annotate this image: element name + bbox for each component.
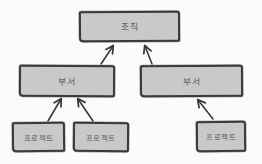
- org-hierarchy-diagram: 조직 부서 부서 프로젝트 프로젝트 프로젝트: [0, 0, 262, 164]
- node-department-right: 부서: [140, 65, 243, 98]
- arrow-dept-left-to-org: [101, 46, 113, 64]
- arrow-proj-1-to-dept-left: [48, 99, 61, 121]
- node-project-3-label: 프로젝트: [206, 131, 236, 142]
- node-organization: 조직: [79, 11, 180, 43]
- node-project-2-label: 프로젝트: [86, 131, 116, 142]
- node-department-left: 부서: [19, 65, 115, 98]
- node-project-2: 프로젝트: [73, 122, 129, 152]
- node-department-right-label: 부서: [182, 74, 200, 87]
- node-project-1-label: 프로젝트: [23, 131, 53, 142]
- node-department-left-label: 부서: [58, 74, 76, 87]
- arrow-dept-right-to-org: [145, 46, 152, 64]
- arrow-proj-2-to-dept-left: [78, 99, 93, 121]
- node-organization-label: 조직: [120, 20, 138, 33]
- arrow-proj-3-to-dept-right: [198, 100, 213, 119]
- node-project-1: 프로젝트: [12, 122, 65, 153]
- node-project-3: 프로젝트: [196, 121, 246, 152]
